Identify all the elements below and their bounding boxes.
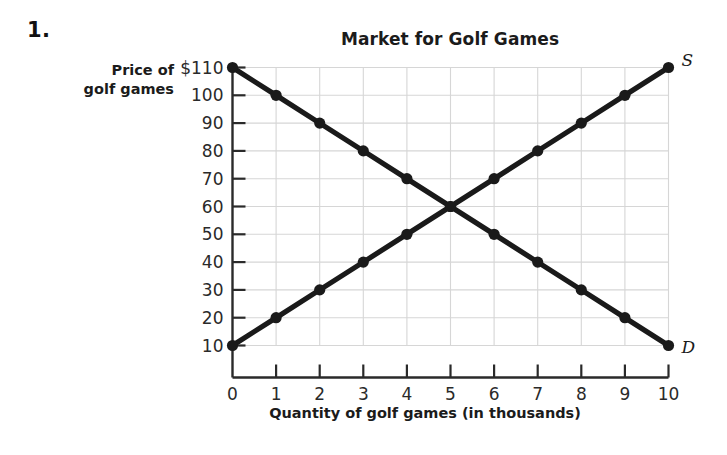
y-tick-label: 30 (202, 280, 224, 300)
data-point (489, 229, 500, 240)
y-axis-ticks: 102030405060708090100$110 (180, 58, 245, 356)
data-point (663, 62, 674, 73)
data-point (227, 62, 238, 73)
x-tick-label: 10 (658, 384, 680, 404)
x-tick-label: 2 (314, 384, 325, 404)
data-point (314, 118, 325, 129)
y-tick-label: 60 (202, 197, 224, 217)
economics-supply-demand-figure: 1. Market for Golf Games Price of golf g… (0, 0, 727, 455)
data-point (445, 201, 456, 212)
data-point (314, 284, 325, 295)
y-tick-label: 10 (202, 336, 224, 356)
data-point (358, 145, 369, 156)
x-tick-label: 8 (576, 384, 587, 404)
y-tick-label: 100 (191, 85, 223, 105)
data-point (532, 145, 543, 156)
data-point (663, 340, 674, 351)
data-point (358, 257, 369, 268)
x-axis-ticks: 012345678910 (227, 365, 679, 404)
data-point (227, 340, 238, 351)
data-point (619, 90, 630, 101)
curve-label-S: S (682, 50, 694, 70)
x-tick-label: 9 (619, 384, 630, 404)
x-tick-label: 1 (271, 384, 282, 404)
x-tick-label: 6 (489, 384, 500, 404)
data-point (401, 173, 412, 184)
x-tick-label: 7 (532, 384, 543, 404)
y-tick-label: 80 (202, 141, 224, 161)
x-tick-label: 5 (445, 384, 456, 404)
y-tick-label: 90 (202, 113, 224, 133)
y-tick-label: $110 (180, 58, 223, 78)
curve-label-D: D (681, 337, 696, 357)
y-tick-label: 20 (202, 308, 224, 328)
data-point (489, 173, 500, 184)
y-tick-label: 50 (202, 224, 224, 244)
chart-plot: 102030405060708090100$110 012345678910 D… (0, 0, 727, 455)
data-point (401, 229, 412, 240)
x-tick-label: 0 (227, 384, 238, 404)
y-tick-label: 40 (202, 252, 224, 272)
x-tick-label: 3 (358, 384, 369, 404)
data-point (532, 257, 543, 268)
x-tick-label: 4 (401, 384, 412, 404)
data-point (576, 118, 587, 129)
data-point (271, 90, 282, 101)
data-point (271, 312, 282, 323)
data-point (576, 284, 587, 295)
curve-labels: DS (681, 50, 696, 357)
data-point (619, 312, 630, 323)
y-tick-label: 70 (202, 169, 224, 189)
